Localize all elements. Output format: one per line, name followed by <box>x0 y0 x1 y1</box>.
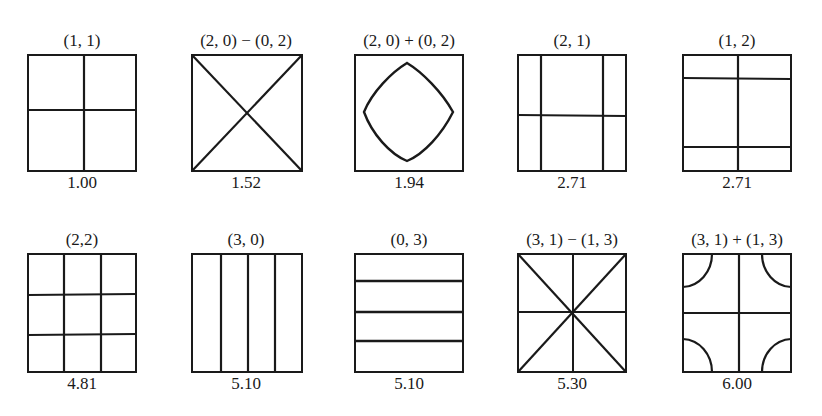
nodal-pattern-cross <box>27 54 137 172</box>
mode-label: (0, 3) <box>339 231 479 249</box>
mode-label: (3, 0) <box>176 231 316 249</box>
eigenvalue-label: 6.00 <box>667 375 807 393</box>
mode-label: (2, 0) − (0, 2) <box>176 32 316 50</box>
mode-label: (3, 1) + (1, 3) <box>667 231 807 249</box>
mode-label: (2,2) <box>12 231 152 249</box>
mode-label: (2, 0) + (0, 2) <box>339 32 479 50</box>
eigenvalue-label: 5.10 <box>339 375 479 393</box>
mode-label: (1, 1) <box>12 32 152 50</box>
nodal-pattern-closed-curve <box>354 54 464 172</box>
eigenvalue-label: 2.71 <box>667 174 807 192</box>
eigenvalue-label: 5.10 <box>176 375 316 393</box>
mode-label: (1, 2) <box>667 32 807 50</box>
mode-label: (3, 1) − (1, 3) <box>502 231 642 249</box>
eigenvalue-label: 2.71 <box>502 174 642 192</box>
nodal-pattern-grid-3x3 <box>27 253 137 373</box>
nodal-pattern-one-vertical-two-horizontal <box>682 54 792 172</box>
nodal-pattern-diagonals <box>191 54 303 172</box>
mode-label: (2, 1) <box>502 32 642 50</box>
nodal-pattern-cross-with-corner-arcs <box>682 253 792 373</box>
eigenvalue-label: 1.00 <box>12 174 152 192</box>
eigenvalue-label: 1.94 <box>339 174 479 192</box>
nodal-pattern-three-vertical <box>191 253 303 373</box>
eigenvalue-label: 4.81 <box>12 375 152 393</box>
nodal-pattern-three-horizontal <box>354 253 464 373</box>
eigenvalue-label: 5.30 <box>502 375 642 393</box>
nodal-pattern-two-vertical-one-horizontal <box>517 54 627 172</box>
eigenvalue-label: 1.52 <box>176 174 316 192</box>
nodal-pattern-star <box>517 253 627 373</box>
